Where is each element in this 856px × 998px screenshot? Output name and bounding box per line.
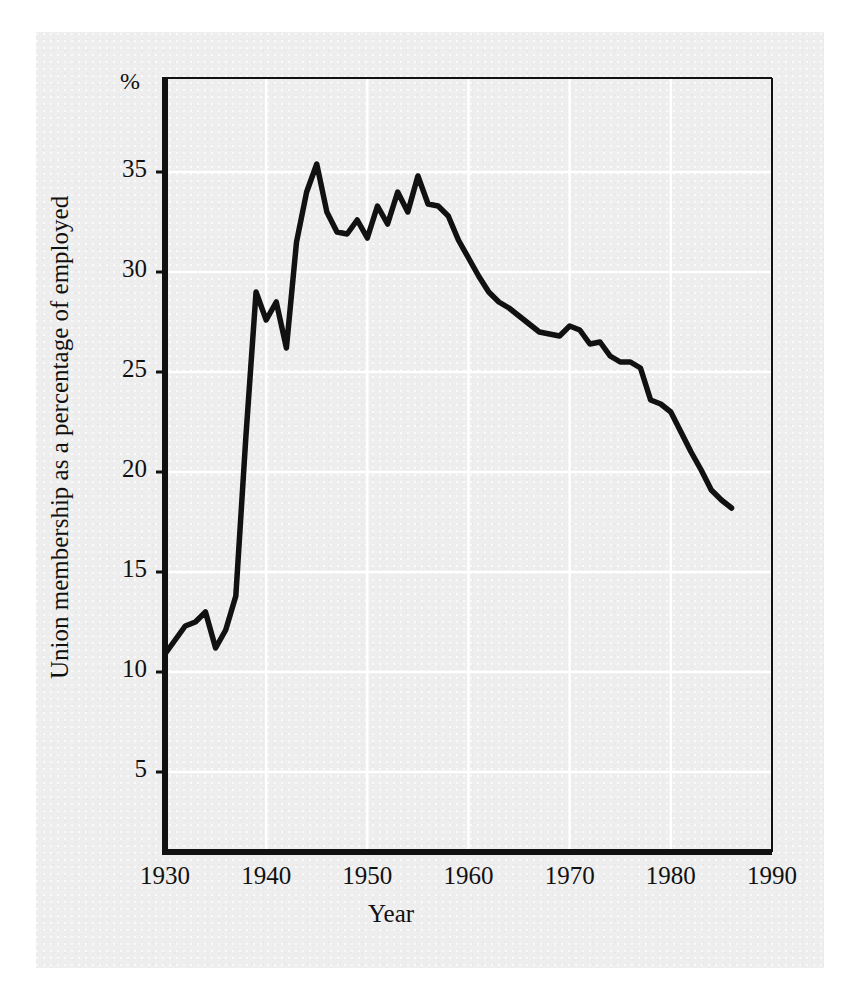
x-tick-label-1960: 1960	[419, 862, 519, 890]
y-tick-label-15: 15	[87, 555, 147, 583]
plot-frame	[162, 77, 772, 852]
y-tick-label-30: 30	[87, 255, 147, 283]
x-tick-label-1970: 1970	[520, 862, 620, 890]
line-chart: % 3530252015105 193019401950196019701980…	[0, 0, 856, 998]
y-axis-unit-label: %	[120, 68, 140, 95]
data-series-line	[165, 164, 732, 654]
x-tick-label-1930: 1930	[115, 862, 215, 890]
x-tick-label-1940: 1940	[216, 862, 316, 890]
x-tick-label-1980: 1980	[621, 862, 721, 890]
x-tick-label-1950: 1950	[317, 862, 417, 890]
y-tick-label-5: 5	[87, 755, 147, 783]
x-tick-label-1990: 1990	[722, 862, 822, 890]
y-axis-title: Union membership as a percentage of empl…	[46, 259, 74, 679]
y-tick-label-25: 25	[87, 355, 147, 383]
y-tick-label-35: 35	[87, 155, 147, 183]
x-axis-title: Year	[368, 900, 414, 928]
gridlines	[165, 78, 772, 852]
plot-svg	[0, 0, 856, 998]
y-tick-label-10: 10	[87, 655, 147, 683]
y-tick-label-20: 20	[87, 455, 147, 483]
